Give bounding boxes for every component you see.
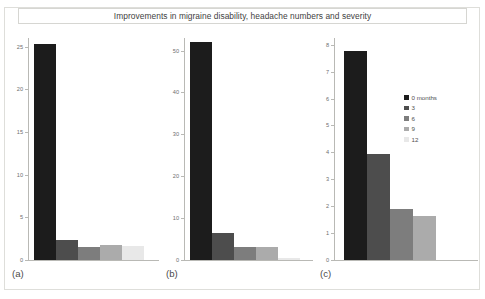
y-tick-a-0 [25, 260, 28, 261]
bar-group-c [344, 51, 459, 260]
y-tick-c-6 [331, 99, 334, 100]
chart-panel-c: 012345678 (c) 0 months36912 [314, 28, 480, 290]
y-tick-label-b-1: 10 [160, 215, 179, 221]
y-tick-label-a-0: 0 [6, 257, 23, 263]
legend-label-1: 3 [412, 104, 415, 111]
plot-area-a: 0510152025 [6, 28, 161, 268]
legend-label-0: 0 months [412, 94, 437, 101]
legend-swatch-icon-2 [404, 116, 409, 121]
legend-item-0[interactable]: 0 months [402, 92, 472, 103]
chart-title-box: Improvements in migraine disability, hea… [18, 8, 467, 24]
bar-a-4 [122, 246, 144, 260]
legend-item-3[interactable]: 9 [402, 124, 472, 135]
y-tick-b-5 [181, 51, 184, 52]
y-axis-line-a [28, 38, 29, 260]
bar-c-1 [367, 154, 390, 260]
y-tick-a-5 [25, 47, 28, 48]
y-tick-c-7 [331, 72, 334, 73]
y-axis-line-c [334, 38, 335, 260]
y-tick-a-3 [25, 132, 28, 133]
x-axis-line-a [28, 260, 159, 261]
y-tick-a-2 [25, 175, 28, 176]
legend-label-2: 6 [412, 115, 415, 122]
x-axis-line-b [184, 260, 313, 261]
bar-c-0 [344, 51, 367, 260]
chart-legend: 0 months36912 [402, 92, 472, 145]
bar-b-4 [278, 258, 300, 260]
panel-label-c: (c) [320, 268, 331, 279]
y-tick-label-c-0: 0 [314, 257, 329, 263]
bar-c-2 [390, 209, 413, 260]
y-tick-b-3 [181, 134, 184, 135]
panel-label-a: (a) [12, 268, 24, 279]
legend-swatch-icon-1 [404, 106, 409, 111]
y-tick-label-a-5: 25 [6, 44, 23, 50]
legend-item-4[interactable]: 12 [402, 134, 472, 145]
bar-b-0 [190, 42, 212, 260]
y-tick-label-c-1: 1 [314, 230, 329, 236]
y-tick-label-c-5: 5 [314, 122, 329, 128]
bar-group-a [34, 44, 144, 260]
legend-label-3: 9 [412, 125, 415, 132]
y-tick-label-a-1: 5 [6, 214, 23, 220]
y-tick-label-a-2: 10 [6, 172, 23, 178]
legend-swatch-icon-3 [404, 127, 409, 132]
legend-label-4: 12 [412, 136, 419, 143]
y-axis-line-b [184, 38, 185, 260]
y-tick-b-2 [181, 176, 184, 177]
bar-b-3 [256, 247, 278, 260]
chart-panel-a: 0510152025 (a) [6, 28, 161, 290]
plot-area-b: 01020304050 [160, 28, 315, 268]
chart-title: Improvements in migraine disability, hea… [114, 11, 371, 21]
y-tick-c-8 [331, 45, 334, 46]
bar-c-3 [413, 216, 436, 260]
y-tick-label-b-2: 20 [160, 173, 179, 179]
y-tick-label-c-4: 4 [314, 149, 329, 155]
bar-a-1 [56, 240, 78, 260]
bar-b-2 [234, 247, 256, 260]
legend-item-2[interactable]: 6 [402, 113, 472, 124]
x-axis-line-c [334, 260, 478, 261]
y-tick-label-b-0: 0 [160, 257, 179, 263]
y-tick-label-c-8: 8 [314, 42, 329, 48]
y-tick-label-b-5: 50 [160, 48, 179, 54]
y-tick-label-c-2: 2 [314, 203, 329, 209]
y-tick-b-1 [181, 218, 184, 219]
y-tick-c-0 [331, 260, 334, 261]
legend-swatch-icon-0 [404, 95, 409, 100]
bar-a-0 [34, 44, 56, 260]
y-tick-label-b-3: 30 [160, 131, 179, 137]
legend-swatch-icon-4 [404, 137, 409, 142]
y-tick-b-0 [181, 260, 184, 261]
y-tick-label-b-4: 40 [160, 89, 179, 95]
y-tick-b-4 [181, 92, 184, 93]
y-tick-c-2 [331, 206, 334, 207]
panel-label-b: (b) [166, 268, 178, 279]
bar-b-1 [212, 233, 234, 260]
figure-root: Improvements in migraine disability, hea… [0, 0, 485, 299]
y-tick-a-1 [25, 217, 28, 218]
bar-a-3 [100, 245, 122, 260]
y-tick-label-a-4: 20 [6, 86, 23, 92]
bar-a-2 [78, 247, 100, 260]
bar-group-b [190, 42, 300, 260]
chart-panel-b: 01020304050 (b) [160, 28, 315, 290]
y-tick-c-1 [331, 233, 334, 234]
y-tick-c-4 [331, 152, 334, 153]
plot-area-c: 012345678 [314, 28, 480, 268]
y-tick-a-4 [25, 89, 28, 90]
y-tick-c-3 [331, 179, 334, 180]
y-tick-label-c-3: 3 [314, 176, 329, 182]
y-tick-label-c-7: 7 [314, 69, 329, 75]
y-tick-label-c-6: 6 [314, 96, 329, 102]
y-tick-label-a-3: 15 [6, 129, 23, 135]
legend-item-1[interactable]: 3 [402, 103, 472, 114]
y-tick-c-5 [331, 125, 334, 126]
